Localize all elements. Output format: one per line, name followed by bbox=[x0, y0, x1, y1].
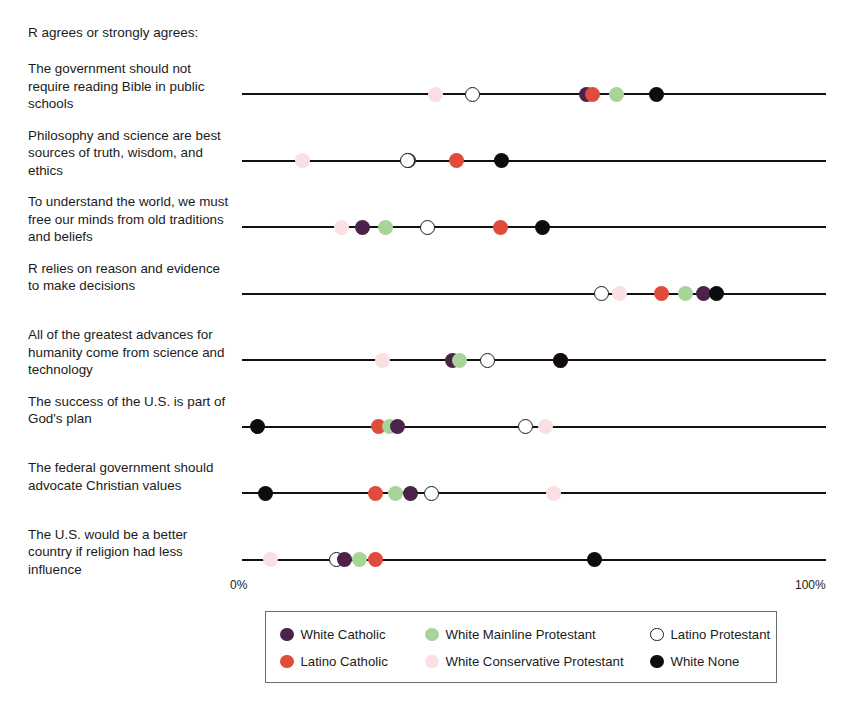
data-point-latino-protestant[interactable] bbox=[594, 286, 609, 301]
data-point-white-catholic[interactable] bbox=[355, 220, 370, 235]
legend-item-latino-protestant[interactable]: Latino Protestant bbox=[650, 627, 770, 642]
legend-item-white-mainline-protestant[interactable]: White Mainline Protestant bbox=[425, 627, 650, 642]
data-point-white-none[interactable] bbox=[535, 220, 550, 235]
axis-line bbox=[242, 93, 826, 95]
chart-header-note: R agrees or strongly agrees: bbox=[28, 24, 198, 42]
plot-row: R relies on reason and evidence to make … bbox=[0, 260, 852, 327]
data-point-white-conservative-protestant[interactable] bbox=[334, 220, 349, 235]
row-track bbox=[242, 459, 826, 526]
data-point-latino-catholic[interactable] bbox=[493, 220, 508, 235]
legend-swatch-icon bbox=[425, 628, 439, 642]
row-label: R relies on reason and evidence to make … bbox=[28, 260, 233, 295]
legend-label: White Catholic bbox=[301, 627, 386, 642]
data-point-latino-protestant[interactable] bbox=[424, 486, 439, 501]
data-point-latino-catholic[interactable] bbox=[368, 552, 383, 567]
legend-grid: White CatholicWhite Mainline ProtestantL… bbox=[280, 621, 770, 675]
plot-rows: The government should not require readin… bbox=[0, 60, 852, 592]
plot-row: The government should not require readin… bbox=[0, 60, 852, 127]
axis-line bbox=[242, 492, 826, 494]
data-point-white-conservative-protestant[interactable] bbox=[375, 353, 390, 368]
legend-label: White Conservative Protestant bbox=[446, 654, 624, 669]
plot-row: Philosophy and science are best sources … bbox=[0, 127, 852, 194]
axis-line bbox=[242, 426, 826, 428]
legend-swatch-icon bbox=[650, 628, 664, 642]
axis-line bbox=[242, 359, 826, 361]
data-point-latino-catholic[interactable] bbox=[585, 87, 600, 102]
legend-item-latino-catholic[interactable]: Latino Catholic bbox=[280, 654, 425, 669]
plot-row: All of the greatest advances for humanit… bbox=[0, 326, 852, 393]
data-point-white-conservative-protestant[interactable] bbox=[295, 153, 310, 168]
data-point-white-none[interactable] bbox=[553, 353, 568, 368]
data-point-white-mainline-protestant[interactable] bbox=[678, 286, 693, 301]
row-label: To understand the world, we must free ou… bbox=[28, 193, 233, 246]
legend-item-white-none[interactable]: White None bbox=[650, 654, 770, 669]
row-label: The success of the U.S. is part of God's… bbox=[28, 393, 233, 428]
data-point-latino-protestant[interactable] bbox=[518, 419, 533, 434]
data-point-latino-protestant[interactable] bbox=[480, 353, 495, 368]
legend-swatch-icon bbox=[425, 655, 439, 669]
plot-row: The success of the U.S. is part of God's… bbox=[0, 393, 852, 460]
row-label: All of the greatest advances for humanit… bbox=[28, 326, 233, 379]
data-point-white-conservative-protestant[interactable] bbox=[538, 419, 553, 434]
row-track bbox=[242, 260, 826, 327]
data-point-white-none[interactable] bbox=[258, 486, 273, 501]
legend-swatch-icon bbox=[650, 655, 664, 669]
legend: White CatholicWhite Mainline ProtestantL… bbox=[265, 611, 777, 683]
data-point-white-none[interactable] bbox=[587, 552, 602, 567]
row-label: The federal government should advocate C… bbox=[28, 459, 233, 494]
legend-item-white-conservative-protestant[interactable]: White Conservative Protestant bbox=[425, 654, 650, 669]
legend-label: White None bbox=[671, 654, 740, 669]
data-point-white-catholic[interactable] bbox=[390, 419, 405, 434]
data-point-white-mainline-protestant[interactable] bbox=[378, 220, 393, 235]
plot-row: The U.S. would be a better country if re… bbox=[0, 526, 852, 593]
data-point-white-none[interactable] bbox=[494, 153, 509, 168]
data-point-white-none[interactable] bbox=[649, 87, 664, 102]
data-point-white-conservative-protestant[interactable] bbox=[263, 552, 278, 567]
row-track bbox=[242, 127, 826, 194]
row-label: Philosophy and science are best sources … bbox=[28, 127, 233, 180]
row-track bbox=[242, 393, 826, 460]
plot-row: The federal government should advocate C… bbox=[0, 459, 852, 526]
data-point-white-catholic[interactable] bbox=[337, 552, 352, 567]
plot-row: To understand the world, we must free ou… bbox=[0, 193, 852, 260]
row-track bbox=[242, 60, 826, 127]
data-point-white-catholic[interactable] bbox=[403, 486, 418, 501]
data-point-white-mainline-protestant[interactable] bbox=[352, 552, 367, 567]
data-point-latino-catholic[interactable] bbox=[368, 486, 383, 501]
axis-min-label: 0% bbox=[230, 578, 247, 592]
row-track bbox=[242, 193, 826, 260]
row-track bbox=[242, 326, 826, 393]
data-point-white-conservative-protestant[interactable] bbox=[428, 87, 443, 102]
axis-max-label: 100% bbox=[795, 578, 826, 592]
row-track bbox=[242, 526, 826, 593]
axis-line bbox=[242, 293, 826, 295]
data-point-white-mainline-protestant[interactable] bbox=[388, 486, 403, 501]
legend-item-white-catholic[interactable]: White Catholic bbox=[280, 627, 425, 642]
data-point-white-none[interactable] bbox=[709, 286, 724, 301]
legend-label: Latino Catholic bbox=[301, 654, 388, 669]
data-point-white-none[interactable] bbox=[250, 419, 265, 434]
data-point-white-mainline-protestant[interactable] bbox=[609, 87, 624, 102]
axis-line bbox=[242, 160, 826, 162]
legend-label: Latino Protestant bbox=[671, 627, 771, 642]
legend-swatch-icon bbox=[280, 628, 294, 642]
row-label: The government should not require readin… bbox=[28, 60, 233, 113]
row-label: The U.S. would be a better country if re… bbox=[28, 526, 233, 579]
data-point-latino-catholic[interactable] bbox=[654, 286, 669, 301]
data-point-white-conservative-protestant[interactable] bbox=[546, 486, 561, 501]
legend-label: White Mainline Protestant bbox=[446, 627, 596, 642]
legend-swatch-icon bbox=[280, 655, 294, 669]
data-point-white-mainline-protestant[interactable] bbox=[452, 353, 467, 368]
data-point-white-conservative-protestant[interactable] bbox=[612, 286, 627, 301]
data-point-latino-protestant[interactable] bbox=[465, 87, 480, 102]
axis-line bbox=[242, 226, 826, 228]
dot-plot-figure: R agrees or strongly agrees: The governm… bbox=[0, 0, 852, 716]
data-point-latino-protestant[interactable] bbox=[420, 220, 435, 235]
data-point-latino-catholic[interactable] bbox=[449, 153, 464, 168]
